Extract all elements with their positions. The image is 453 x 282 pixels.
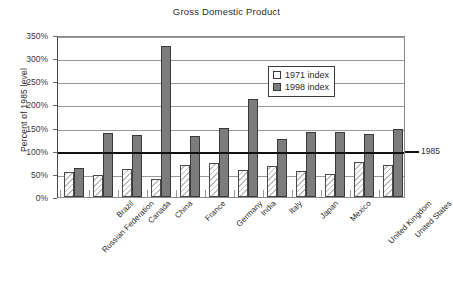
x-axis-tick-mark: [118, 190, 119, 197]
bar-1971[interactable]: [267, 166, 277, 197]
bar-1998[interactable]: [393, 129, 403, 197]
chart-legend: 1971 index 1998 index: [268, 66, 335, 97]
bar-1998[interactable]: [132, 135, 142, 197]
x-axis-tick-mark: [176, 190, 177, 197]
y-axis-tick-label: 0%: [0, 193, 48, 203]
x-axis-tick-mark: [379, 190, 380, 197]
bar-series-container: [58, 37, 404, 197]
x-axis-category-label: Italy: [287, 199, 304, 216]
bar-1971[interactable]: [209, 163, 219, 197]
bar-1971[interactable]: [122, 169, 132, 197]
bar-group: [116, 37, 145, 197]
x-axis-tick-mark: [60, 190, 61, 197]
legend-label-1998: 1998 index: [285, 82, 329, 92]
bar-1998[interactable]: [364, 134, 374, 197]
x-axis-category-label: Germany: [234, 199, 264, 229]
legend-swatch-1998-icon: [273, 83, 281, 91]
chart-title: Gross Domestic Product: [0, 6, 453, 17]
bar-group: [261, 37, 290, 197]
bar-1971[interactable]: [64, 172, 74, 197]
x-axis-category-label: Mexico: [348, 199, 372, 223]
legend-item-1998[interactable]: 1998 index: [273, 81, 329, 93]
x-axis-category-label: China: [173, 199, 194, 220]
bar-group: [290, 37, 319, 197]
y-axis-tick-label: 150%: [0, 124, 48, 134]
x-axis-tick-mark: [321, 190, 322, 197]
x-axis-tick-mark: [263, 190, 264, 197]
gross-domestic-product-chart: Gross Domestic Product Percent of 1985 l…: [0, 0, 453, 282]
bar-1971[interactable]: [296, 171, 306, 197]
plot-area: [57, 36, 405, 198]
bar-1971[interactable]: [325, 174, 335, 197]
bar-1998[interactable]: [248, 99, 258, 197]
bar-group: [58, 37, 87, 197]
x-axis-category-label: France: [203, 199, 227, 223]
bar-group: [174, 37, 203, 197]
reference-line-1985: [58, 152, 404, 154]
bar-1971[interactable]: [354, 162, 364, 197]
bar-group: [348, 37, 377, 197]
legend-label-1971: 1971 index: [285, 70, 329, 80]
bar-1971[interactable]: [93, 175, 103, 197]
x-axis-tick-mark: [350, 190, 351, 197]
bar-1998[interactable]: [103, 133, 113, 197]
x-axis-label-container: Russian FederationBrazilCanadaChinaFranc…: [57, 199, 405, 282]
x-axis-category-label: Japan: [318, 199, 340, 221]
bar-group: [203, 37, 232, 197]
bar-1971[interactable]: [383, 165, 393, 197]
bar-group: [232, 37, 261, 197]
y-axis-tick-label: 50%: [0, 170, 48, 180]
bar-group: [145, 37, 174, 197]
bar-1971[interactable]: [238, 170, 248, 197]
legend-item-1971[interactable]: 1971 index: [273, 69, 329, 81]
y-axis-tick-label: 350%: [0, 31, 48, 41]
reference-line-extension: [405, 151, 419, 153]
x-axis-tick-mark: [89, 190, 90, 197]
legend-swatch-1971-icon: [273, 71, 281, 79]
bar-1971[interactable]: [180, 165, 190, 197]
y-axis-tick-label: 200%: [0, 100, 48, 110]
bar-1998[interactable]: [161, 46, 171, 197]
bar-group: [87, 37, 116, 197]
bar-1998[interactable]: [219, 128, 229, 197]
bar-1998[interactable]: [306, 132, 316, 197]
x-axis-tick-mark: [234, 190, 235, 197]
bar-1998[interactable]: [190, 136, 200, 197]
reference-line-label: 1985: [421, 146, 440, 156]
bar-1998[interactable]: [74, 168, 84, 197]
x-axis-tick-mark: [292, 190, 293, 197]
y-axis-tick-label: 250%: [0, 77, 48, 87]
bar-group: [319, 37, 348, 197]
x-axis-tick-mark: [147, 190, 148, 197]
y-axis-tick-label: 300%: [0, 54, 48, 64]
bar-1998[interactable]: [277, 139, 287, 197]
bar-1998[interactable]: [335, 132, 345, 197]
x-axis-tick-mark: [205, 190, 206, 197]
y-axis-tick-label: 100%: [0, 147, 48, 157]
bar-1971[interactable]: [151, 179, 161, 197]
bar-group: [377, 37, 406, 197]
